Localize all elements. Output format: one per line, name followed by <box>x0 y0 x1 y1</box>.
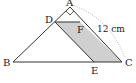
label-b: B <box>3 57 10 68</box>
label-e: E <box>91 65 98 76</box>
label-a: A <box>65 0 74 8</box>
segment-ab <box>13 7 70 62</box>
geometry-diagram: A D F B E C 12 cm <box>0 0 136 83</box>
label-f: F <box>77 24 84 35</box>
label-d: D <box>45 14 53 25</box>
measure-label: 12 cm <box>97 24 125 34</box>
right-angle-marker <box>66 11 74 15</box>
label-c: C <box>125 57 133 68</box>
